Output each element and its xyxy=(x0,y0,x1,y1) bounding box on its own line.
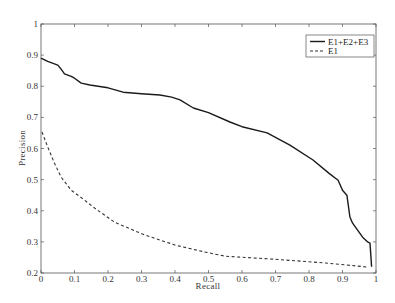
y-tick-label: 0.3 xyxy=(27,237,39,247)
x-tick-label: 0.8 xyxy=(303,274,315,284)
x-tick-label: 0.6 xyxy=(236,274,248,284)
x-tick-label: 0.4 xyxy=(169,274,181,284)
y-tick-label: 1 xyxy=(34,19,39,29)
y-tick-label: 0.6 xyxy=(27,144,39,154)
legend-item-e1-e2-e3: E1+E2+E3 xyxy=(328,37,369,47)
legend-item-e1: E1 xyxy=(328,46,338,56)
y-tick-label: 0.8 xyxy=(27,81,39,91)
chart-canvas: 00.10.20.30.40.50.60.70.80.910.20.30.40.… xyxy=(0,0,395,303)
x-tick-label: 0.3 xyxy=(136,274,148,284)
x-tick-label: 0.9 xyxy=(337,274,349,284)
legend: E1+E2+E3 E1 xyxy=(306,35,374,57)
x-tick-label: 0 xyxy=(39,274,44,284)
x-tick-label: 0.7 xyxy=(270,274,282,284)
y-tick-label: 0.5 xyxy=(27,175,39,185)
x-tick-label: 1 xyxy=(374,274,379,284)
y-tick-label: 0.2 xyxy=(27,268,38,278)
y-tick-label: 0.9 xyxy=(27,50,39,60)
y-axis-label: Precision xyxy=(17,130,27,166)
x-axis-label: Recall xyxy=(196,281,221,291)
y-tick-label: 0.4 xyxy=(27,206,39,216)
precision-recall-chart: 00.10.20.30.40.50.60.70.80.910.20.30.40.… xyxy=(0,0,395,303)
y-tick-label: 0.7 xyxy=(27,112,39,122)
x-tick-label: 0.1 xyxy=(69,274,80,284)
x-tick-label: 0.2 xyxy=(102,274,113,284)
